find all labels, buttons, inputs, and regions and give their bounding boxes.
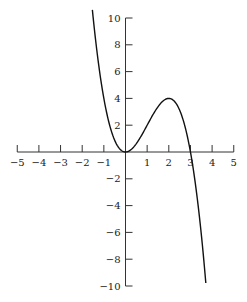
x-tick-label: −4: [32, 157, 47, 168]
x-tick-label: −1: [96, 157, 111, 168]
y-tick-label: −4: [106, 200, 121, 211]
x-tick-label: 5: [231, 157, 237, 168]
function-curve: [92, 10, 205, 283]
y-tick-label: 2: [114, 120, 120, 131]
x-tick-label: 2: [166, 157, 172, 168]
x-tick-label: −3: [53, 157, 68, 168]
x-tick-label: 4: [209, 157, 215, 168]
y-tick-label: 4: [114, 93, 120, 104]
x-tick-label: 1: [144, 157, 150, 168]
y-tick-label: 10: [108, 13, 121, 24]
x-tick-label: −2: [75, 157, 90, 168]
y-tick-label: −10: [99, 281, 120, 292]
y-tick-label: −8: [106, 254, 121, 265]
y-tick-label: −6: [106, 227, 121, 238]
y-tick-label: 8: [114, 39, 120, 50]
x-tick-label: −5: [10, 157, 25, 168]
function-plot: −5−4−3−2−112345−10−8−6−4−2246810: [0, 0, 247, 302]
y-tick-label: 6: [114, 66, 120, 77]
y-tick-label: −2: [106, 173, 121, 184]
